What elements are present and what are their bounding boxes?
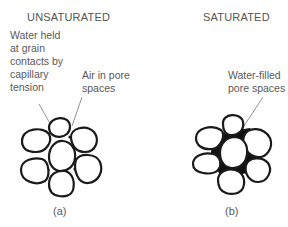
saturated-grain-cluster bbox=[193, 115, 271, 194]
grain-bottom bbox=[218, 169, 244, 193]
grain-bottom bbox=[49, 171, 74, 196]
grain-top bbox=[49, 118, 70, 137]
grain-center bbox=[49, 141, 75, 171]
grain-lower-left bbox=[21, 158, 48, 183]
grain-upper-left bbox=[22, 129, 50, 152]
leader-line-air bbox=[72, 97, 82, 126]
grain-top bbox=[223, 115, 243, 135]
grain-lower-left bbox=[193, 153, 220, 173]
grain-upper-right bbox=[71, 128, 97, 152]
leader-line-water-filled bbox=[242, 97, 263, 129]
panel-b-caption: (b) bbox=[225, 205, 238, 218]
grain-upper-left bbox=[196, 127, 223, 149]
panel-a-caption: (a) bbox=[53, 205, 66, 218]
grain-diagram bbox=[0, 0, 288, 227]
unsaturated-grain-cluster bbox=[21, 118, 101, 196]
grain-lower-right bbox=[246, 158, 270, 182]
grain-lower-right bbox=[75, 155, 101, 183]
grain-center bbox=[220, 137, 247, 168]
